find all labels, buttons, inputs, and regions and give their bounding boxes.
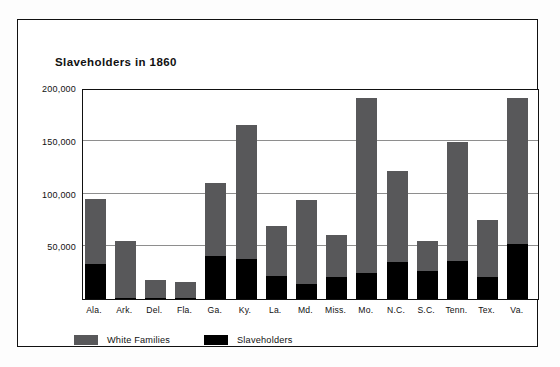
bar-slaveholders — [447, 261, 468, 299]
white-families-swatch — [74, 335, 98, 345]
bar-slaveholders — [266, 276, 287, 299]
bar-group-tenn[interactable] — [447, 88, 468, 299]
x-tick-label-va: Va. — [497, 305, 537, 315]
bar-slaveholders — [175, 298, 196, 299]
bar-group-va[interactable] — [507, 88, 528, 299]
figure-frame: Slaveholders in 1860 50,000100,000150,00… — [17, 19, 538, 347]
legend-entry[interactable]: Slaveholders — [204, 335, 293, 345]
bar-group-tex[interactable] — [477, 88, 498, 299]
bar-group-md[interactable] — [296, 88, 317, 299]
bar-group-fla[interactable] — [175, 88, 196, 299]
bar-slaveholders — [296, 284, 317, 299]
bar-group-ga[interactable] — [205, 88, 226, 299]
bar-white-families — [175, 282, 196, 299]
bar-group-sc[interactable] — [417, 88, 438, 299]
bar-group-mo[interactable] — [356, 88, 377, 299]
page-title: Slaveholders in 1860 — [55, 56, 177, 68]
bar-group-ala[interactable] — [85, 88, 106, 299]
bar-white-families — [115, 241, 136, 299]
bar-slaveholders — [205, 256, 226, 299]
bar-slaveholders — [326, 277, 347, 299]
bar-group-miss[interactable] — [326, 88, 347, 299]
bar-slaveholders — [115, 298, 136, 299]
bar-group-nc[interactable] — [387, 88, 408, 299]
y-axis-labels: 50,000100,000150,000200,000 — [18, 89, 76, 300]
x-axis-labels: Ala.Ark.Del.Fla.Ga.Ky.La.Md.Miss.Mo.N.C.… — [82, 305, 539, 321]
bar-group-del[interactable] — [145, 88, 166, 299]
legend-entry[interactable]: White Families — [74, 335, 170, 345]
bar-slaveholders — [356, 273, 377, 299]
plot-area — [82, 89, 539, 300]
bar-slaveholders — [85, 264, 106, 299]
chart-legend: White FamiliesSlaveholders — [74, 335, 293, 345]
bar-slaveholders — [236, 259, 257, 299]
bar-group-la[interactable] — [266, 88, 287, 299]
y-tick-label: 150,000 — [42, 137, 76, 147]
bar-slaveholders — [477, 277, 498, 299]
y-tick-label: 100,000 — [42, 190, 76, 200]
bar-group-ark[interactable] — [115, 88, 136, 299]
bar-slaveholders — [507, 244, 528, 299]
bar-group-ky[interactable] — [236, 88, 257, 299]
bar-white-families — [356, 98, 377, 300]
slaveholders-swatch — [204, 335, 228, 345]
y-tick-label: 50,000 — [47, 242, 76, 252]
bar-white-families — [145, 280, 166, 299]
legend-label: Slaveholders — [237, 335, 293, 345]
legend-label: White Families — [107, 335, 170, 345]
bar-slaveholders — [145, 298, 166, 299]
y-tick-label: 200,000 — [42, 84, 76, 94]
bar-slaveholders — [417, 271, 438, 299]
bar-slaveholders — [387, 262, 408, 299]
